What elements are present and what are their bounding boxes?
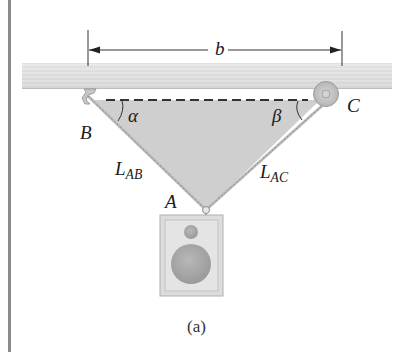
statics-diagram: b α β B C A LAB LAC (a) (0, 0, 412, 352)
point-label-b: B (80, 123, 92, 142)
angle-label-beta: β (272, 106, 281, 125)
figure-caption: (a) (187, 318, 206, 335)
cable-label-ac-main: L (260, 161, 271, 182)
cable-label-ac: LAC (260, 162, 288, 185)
speaker-woofer (171, 244, 211, 284)
left-border-bar (8, 0, 11, 352)
speaker-tweeter (184, 225, 198, 239)
point-label-c: C (347, 96, 360, 115)
pulley-c (314, 82, 339, 107)
dimension-label-b: b (212, 39, 228, 58)
cable-label-ab: LAB (115, 159, 142, 182)
cable-label-ab-sub: AB (126, 167, 143, 182)
point-label-a: A (165, 192, 177, 211)
diagram-canvas (0, 0, 412, 352)
angle-label-alpha: α (128, 106, 138, 125)
cable-label-ab-main: L (115, 158, 126, 179)
ceiling (22, 63, 392, 89)
cable-label-ac-sub: AC (271, 170, 288, 185)
speaker (160, 215, 223, 296)
joint-a (203, 207, 210, 216)
